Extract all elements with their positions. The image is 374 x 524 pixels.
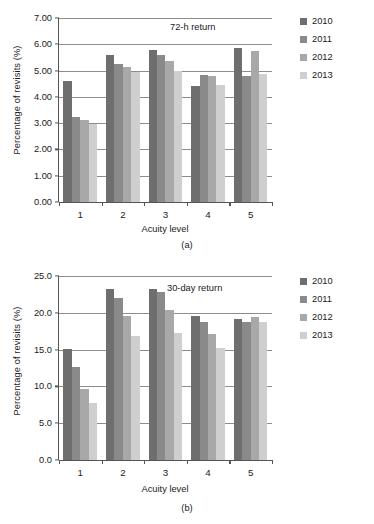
y-tick-label: 10.0 <box>34 381 52 391</box>
bar-2013-level-3 <box>174 71 182 202</box>
bar-group-5 <box>229 18 272 202</box>
legend-label: 2010 <box>312 16 333 26</box>
bar-2010-level-1 <box>63 81 71 202</box>
y-tick-label: 5.0 <box>39 418 52 428</box>
bar-group-4 <box>187 18 230 202</box>
bar-group-3 <box>144 18 187 202</box>
legend-label: 2012 <box>312 312 333 322</box>
bar-groups-b <box>59 276 272 460</box>
y-tick-label: 7.00 <box>34 13 52 23</box>
x-tick-mark <box>144 202 145 206</box>
legend-item-2011[interactable]: 2011 <box>300 290 333 308</box>
bar-2013-level-2 <box>131 72 139 202</box>
x-tick-mark <box>59 460 60 464</box>
bar-2012-level-5 <box>251 51 259 202</box>
bar-group-4 <box>187 276 230 460</box>
x-tick-label-3: 3 <box>163 209 168 220</box>
bar-2013-level-5 <box>259 74 267 202</box>
y-tick-label: 6.00 <box>34 39 52 49</box>
bar-2011-level-4 <box>200 322 208 460</box>
x-tick-mark <box>102 460 103 464</box>
bar-2010-level-2 <box>106 55 114 202</box>
legend-swatch-icon-2013 <box>300 332 307 339</box>
plot-area-b: 0.05.010.015.020.025.0 12345 <box>58 276 272 460</box>
legend-label: 2013 <box>312 330 333 340</box>
x-tick-label-5: 5 <box>248 209 253 220</box>
x-tick-label-2: 2 <box>120 467 125 478</box>
bar-2010-level-3 <box>149 50 157 202</box>
bar-2011-level-5 <box>242 76 250 202</box>
y-tick-label: 15.0 <box>34 345 52 355</box>
bar-2011-level-1 <box>72 117 80 202</box>
bar-2011-level-1 <box>72 367 80 460</box>
bar-2012-level-5 <box>251 317 259 460</box>
legend-swatch-icon-2012 <box>300 54 307 61</box>
legend-item-2011[interactable]: 2011 <box>300 30 333 48</box>
legend-swatch-icon-2010 <box>300 278 307 285</box>
y-tick-label: 25.0 <box>34 271 52 281</box>
bar-2010-level-5 <box>234 319 242 460</box>
legend-item-2010[interactable]: 2010 <box>300 272 333 290</box>
y-tick-label: 5.00 <box>34 66 52 76</box>
x-axis-title-a: Acuity level <box>58 224 272 234</box>
y-axis-title-a: Percentage of revisits (%) <box>12 20 22 180</box>
x-tick-mark <box>187 460 188 464</box>
bar-group-1 <box>59 18 102 202</box>
chart-a: Percentage of revisits (%) 0.001.002.003… <box>0 0 374 230</box>
x-tick-label-2: 2 <box>120 209 125 220</box>
legend-label: 2011 <box>312 294 332 304</box>
x-tick-mark <box>144 460 145 464</box>
y-tick-label: 4.00 <box>34 92 52 102</box>
bar-2010-level-1 <box>63 349 71 460</box>
legend-label: 2013 <box>312 70 333 80</box>
legend-swatch-icon-2011 <box>300 296 307 303</box>
legend-swatch-icon-2011 <box>300 36 307 43</box>
panel-b-caption: (b) <box>0 503 374 513</box>
legend-label: 2011 <box>312 34 332 44</box>
x-tick-label-3: 3 <box>163 467 168 478</box>
bar-2011-level-4 <box>200 75 208 202</box>
bar-2013-level-4 <box>216 348 224 460</box>
legend-swatch-icon-2012 <box>300 314 307 321</box>
legend-item-2013[interactable]: 2013 <box>300 326 333 344</box>
bar-2010-level-4 <box>191 316 199 460</box>
legend-item-2013[interactable]: 2013 <box>300 66 333 84</box>
bar-2013-level-1 <box>89 403 97 460</box>
bar-groups-a <box>59 18 272 202</box>
legend-item-2012[interactable]: 2012 <box>300 308 333 326</box>
bar-2013-level-3 <box>174 333 182 460</box>
bar-group-2 <box>102 18 145 202</box>
x-tick-label-4: 4 <box>205 467 210 478</box>
legend-b: 2010201120122013 <box>300 272 333 344</box>
bar-2012-level-2 <box>123 316 131 460</box>
x-tick-mark <box>102 202 103 206</box>
figure-panel-b: Percentage of revisits (%) 0.05.010.015.… <box>0 258 374 524</box>
bar-2013-level-4 <box>216 85 224 202</box>
y-tick-label: 0.00 <box>34 197 52 207</box>
x-tick-label-4: 4 <box>205 209 210 220</box>
gridline-0.0 <box>59 460 272 461</box>
bar-2012-level-1 <box>80 389 88 460</box>
x-tick-label-1: 1 <box>78 467 83 478</box>
panel-a-caption: (a) <box>0 240 374 250</box>
bar-2013-level-2 <box>131 336 139 460</box>
x-tick-label-1: 1 <box>78 209 83 220</box>
bar-2012-level-1 <box>80 120 88 202</box>
x-tick-mark <box>272 202 273 206</box>
bar-2010-level-3 <box>149 289 157 460</box>
bar-group-2 <box>102 276 145 460</box>
legend-item-2012[interactable]: 2012 <box>300 48 333 66</box>
x-tick-mark <box>229 460 230 464</box>
bar-2013-level-5 <box>259 322 267 460</box>
panel-b-title: 30-day return <box>167 283 222 293</box>
x-axis-title-b: Acuity level <box>58 484 272 494</box>
figure-panel-a: Percentage of revisits (%) 0.001.002.003… <box>0 0 374 258</box>
plot-area-a: 0.001.002.003.004.005.006.007.00 12345 <box>58 18 272 202</box>
legend-item-2010[interactable]: 2010 <box>300 12 333 30</box>
y-tick-label: 1.00 <box>34 171 52 181</box>
bar-2011-level-5 <box>242 322 250 460</box>
legend-swatch-icon-2010 <box>300 18 307 25</box>
bar-group-5 <box>229 276 272 460</box>
legend-a: 2010201120122013 <box>300 12 333 84</box>
x-tick-mark <box>187 202 188 206</box>
